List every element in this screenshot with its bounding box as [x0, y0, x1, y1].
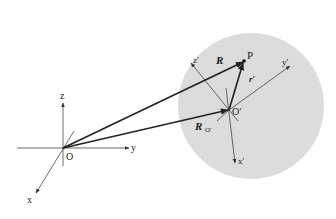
vector-r-prime-label: r′: [249, 74, 256, 84]
diagram-canvas: z y x O P z′ y′ x′ O′ R r′ R O′: [0, 0, 336, 219]
x-prime-label: x′: [238, 156, 245, 166]
z-axis-label: z: [60, 90, 65, 101]
point-P-label: P: [247, 49, 253, 61]
point-P: [242, 59, 246, 63]
vector-R-O-prime-subscript: O′: [205, 126, 212, 134]
vector-R-O-prime-label: R: [194, 120, 202, 132]
fixed-frame-axes: [17, 103, 129, 193]
y-prime-label: y′: [282, 57, 289, 67]
z-prime-label: z′: [193, 55, 199, 65]
origin-O-prime-label: O′: [232, 106, 241, 117]
x-axis-label: x: [27, 194, 32, 205]
y-axis-label: y: [131, 142, 136, 153]
x-axis: [36, 131, 74, 193]
origin-O-label: O: [66, 151, 73, 162]
vector-R-label: R: [215, 54, 223, 66]
